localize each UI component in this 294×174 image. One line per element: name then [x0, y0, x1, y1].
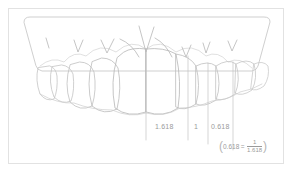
formula-equals: = — [241, 143, 245, 150]
formula-right-bracket: ) — [263, 140, 267, 152]
figure-root: 1.618 1 0.618 ( 0.618 = 1 1.618 ) — [0, 0, 294, 174]
papilla-v-right-4 — [228, 40, 237, 51]
papilla-v-left-3 — [74, 40, 83, 52]
golden-ratio-formula: ( 0.618 = 1 1.618 ) — [219, 139, 267, 153]
papilla-v-right-2 — [182, 45, 191, 57]
papilla-v-left-1 — [120, 39, 139, 57]
papilla-v-midline — [139, 26, 154, 52]
measure-label-canine: 0.618 — [211, 123, 230, 130]
papilla-v-left-4 — [46, 38, 49, 48]
papilla-v-left-2 — [101, 39, 114, 53]
measure-label-central-incisor: 1.618 — [155, 123, 174, 130]
tooth-right-premolar-1 — [216, 61, 238, 99]
tooth-right-central-incisor — [146, 49, 180, 115]
formula-value: 0.618 — [223, 143, 239, 150]
formula-denominator: 1.618 — [247, 147, 262, 154]
papilla-v-right-3 — [203, 42, 210, 53]
formula-fraction: 1 1.618 — [247, 139, 262, 153]
measure-label-lateral-incisor: 1 — [194, 123, 198, 130]
tooth-right-canine — [196, 63, 219, 105]
